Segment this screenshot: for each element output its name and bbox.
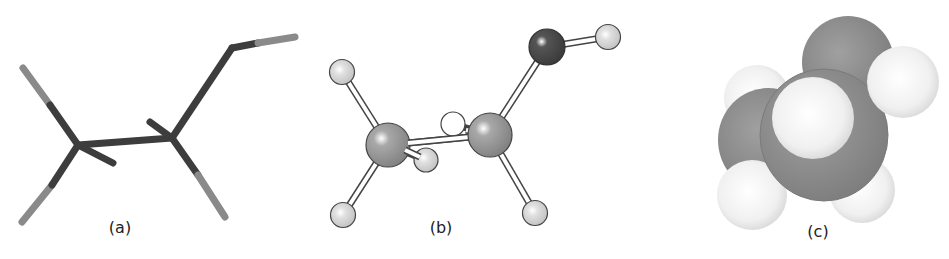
- molecule-figure: [0, 0, 949, 259]
- bond-h-bottomright: [198, 175, 225, 217]
- space-filling-panel: [717, 16, 939, 230]
- bond-c-o: [172, 48, 232, 138]
- ball-stick-panel: [330, 25, 621, 228]
- bond-c-c: [78, 138, 172, 145]
- bond-o-h: [258, 37, 295, 43]
- bond-h-bottomleft: [22, 185, 52, 222]
- stick-model-panel: [22, 37, 295, 222]
- panel-label-c: (c): [807, 222, 828, 241]
- panel-label-a: (a): [109, 218, 131, 237]
- atom-h-2: [331, 203, 356, 228]
- atom-h-3: [523, 201, 548, 226]
- sf-h-center: [772, 77, 854, 159]
- panel-label-b: (b): [430, 218, 453, 237]
- atom-h-1: [330, 60, 355, 85]
- bond-h-topleft: [23, 68, 50, 105]
- atom-h-back: [414, 148, 438, 172]
- atom-h-white: [441, 112, 465, 136]
- sf-h-topright: [867, 46, 939, 118]
- atom-c-left: [366, 123, 410, 167]
- atom-o: [529, 29, 565, 65]
- atom-h-oh: [596, 25, 621, 50]
- atom-c-right: [468, 113, 512, 157]
